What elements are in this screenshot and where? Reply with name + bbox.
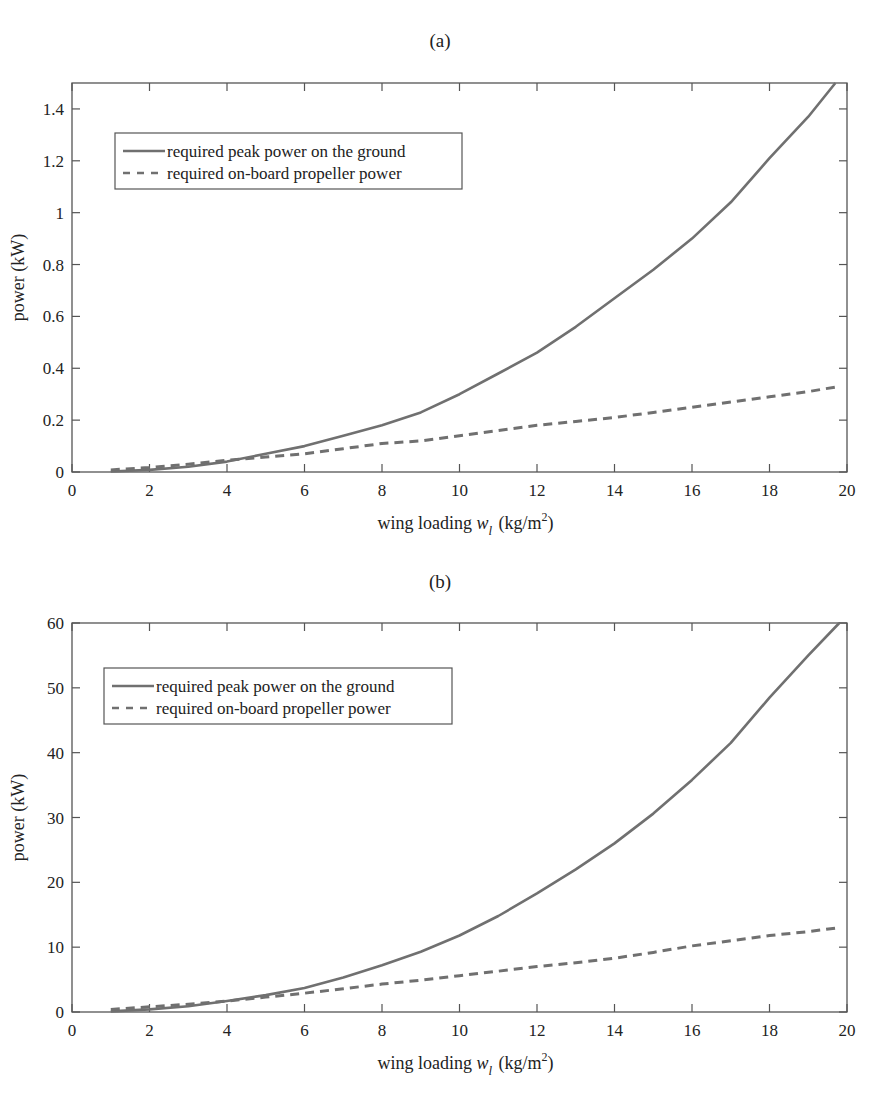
x-tick-label: 20 xyxy=(839,1021,856,1040)
x-tick-label: 20 xyxy=(839,481,856,500)
x-tick-label: 0 xyxy=(68,481,77,500)
legend-entry-label: required on-board propeller power xyxy=(167,164,402,183)
x-tick-label: 4 xyxy=(223,1021,232,1040)
x-tick-label: 16 xyxy=(684,481,701,500)
x-tick-label: 12 xyxy=(529,1021,546,1040)
x-tick-label: 6 xyxy=(300,1021,309,1040)
legend-entry-label: required peak power on the ground xyxy=(167,142,406,161)
y-tick-label: 0.8 xyxy=(43,256,64,275)
y-tick-label: 0 xyxy=(56,463,65,482)
x-tick-label: 18 xyxy=(761,481,778,500)
chart-b: 024681012141618200102030405060power (kW)… xyxy=(8,614,856,1078)
legend: required peak power on the groundrequire… xyxy=(104,668,452,724)
x-tick-label: 10 xyxy=(451,481,468,500)
y-tick-label: 0.6 xyxy=(43,307,64,326)
legend: required peak power on the groundrequire… xyxy=(115,133,462,189)
y-tick-label: 1.4 xyxy=(43,100,65,119)
x-tick-label: 14 xyxy=(606,1021,624,1040)
chart-a: 0246810121416182000.20.40.60.811.21.4pow… xyxy=(8,83,856,538)
series-propeller-power-line xyxy=(111,386,840,470)
y-tick-label: 0.2 xyxy=(43,411,64,430)
y-axis-label: power (kW) xyxy=(8,234,29,321)
x-tick-label: 10 xyxy=(451,1021,468,1040)
y-tick-label: 30 xyxy=(47,809,64,828)
x-tick-label: 0 xyxy=(68,1021,77,1040)
y-tick-label: 1 xyxy=(56,204,65,223)
y-tick-label: 0.4 xyxy=(43,359,65,378)
y-tick-label: 10 xyxy=(47,938,64,957)
figure-canvas: 0246810121416182000.20.40.60.811.21.4pow… xyxy=(0,0,893,1114)
x-tick-label: 8 xyxy=(378,1021,387,1040)
legend-entry-label: required peak power on the ground xyxy=(156,677,395,696)
y-tick-label: 40 xyxy=(47,744,64,763)
y-tick-label: 1.2 xyxy=(43,152,64,171)
x-tick-label: 12 xyxy=(529,481,546,500)
x-tick-label: 4 xyxy=(223,481,232,500)
x-tick-label: 16 xyxy=(684,1021,701,1040)
y-tick-label: 60 xyxy=(47,614,64,633)
x-tick-label: 18 xyxy=(761,1021,778,1040)
legend-entry-label: required on-board propeller power xyxy=(156,699,391,718)
x-tick-label: 2 xyxy=(145,481,154,500)
y-axis-label: power (kW) xyxy=(8,774,29,861)
y-tick-label: 50 xyxy=(47,679,64,698)
x-axis-label: wing loading wl (kg/m2) xyxy=(377,510,553,538)
x-tick-label: 2 xyxy=(145,1021,154,1040)
y-tick-label: 0 xyxy=(56,1003,65,1022)
y-tick-label: 20 xyxy=(47,873,64,892)
x-axis-label: wing loading wl (kg/m2) xyxy=(377,1050,553,1078)
x-tick-label: 6 xyxy=(300,481,309,500)
x-tick-label: 8 xyxy=(378,481,387,500)
series-propeller-power-line xyxy=(111,928,840,1010)
x-tick-label: 14 xyxy=(606,481,624,500)
